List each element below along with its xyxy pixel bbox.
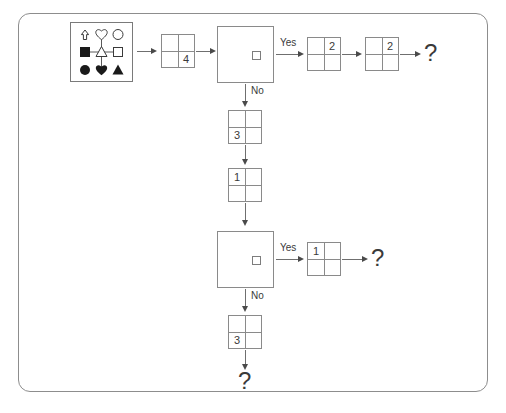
question-mark-1: ? <box>424 41 437 65</box>
decision-1-marker-square <box>252 51 261 60</box>
arrowhead-grid1a-to-decision2 <box>242 220 248 226</box>
grid-no-1: 3 <box>228 110 262 144</box>
heart-filled-icon <box>96 65 107 75</box>
decision-box-2 <box>217 231 274 288</box>
circle-outline-icon <box>113 30 123 40</box>
arrowhead-decision2-no <box>242 306 248 312</box>
circle-filled-icon <box>80 65 90 75</box>
heart-outline-icon <box>96 30 107 40</box>
question-mark-3: ? <box>238 369 251 393</box>
shapes-legend-svg <box>71 23 132 81</box>
grid-no-2: 3 <box>228 315 262 349</box>
label-no-2: No <box>251 291 264 301</box>
label-yes-1: Yes <box>280 38 296 48</box>
grid-yes-1b: 2 <box>365 37 399 71</box>
grid-yes-1a: 2 <box>307 37 341 71</box>
arrowhead-decision2-yes <box>298 256 304 262</box>
square-outline-icon <box>114 48 123 57</box>
arrowhead-grid1b-to-question2 <box>362 256 368 262</box>
grid-yes-2-value: 1 <box>308 243 324 259</box>
arrow-up-outline-icon <box>81 30 88 40</box>
question-mark-2: ? <box>371 246 384 270</box>
arrowhead-grid4-to-decision1 <box>210 48 216 54</box>
grid-4-value: 4 <box>178 51 194 67</box>
grid-yes-1b-value: 2 <box>382 38 398 54</box>
grid-mid-1: 1 <box>228 168 262 202</box>
square-filled-icon <box>81 48 90 57</box>
label-no-1: No <box>251 86 264 96</box>
grid-yes-1a-value: 2 <box>324 38 340 54</box>
grid-yes-2: 1 <box>307 242 341 276</box>
grid-no-2-value: 3 <box>229 332 245 348</box>
arrowhead-grid3a-to-grid1a <box>242 159 248 165</box>
diagram-canvas: 4 Yes 2 2 ? No 3 1 <box>0 0 506 413</box>
decision-2-marker-square <box>252 256 261 265</box>
label-yes-2: Yes <box>280 243 296 253</box>
arrowhead-legend-to-grid4 <box>151 48 157 54</box>
grid-no-1-value: 3 <box>229 127 245 143</box>
arrowhead-decision1-no <box>242 101 248 107</box>
arrowhead-decision1-yes <box>298 51 304 57</box>
decision-box-1 <box>217 26 274 83</box>
arrowhead-grid2b-to-question1 <box>415 51 421 57</box>
arrowhead-grid2a-to-grid2b <box>356 51 362 57</box>
triangle-filled-icon <box>113 65 124 75</box>
grid-mid-1-value: 1 <box>229 169 245 185</box>
grid-4: 4 <box>161 34 195 68</box>
shapes-legend-box <box>70 22 133 82</box>
